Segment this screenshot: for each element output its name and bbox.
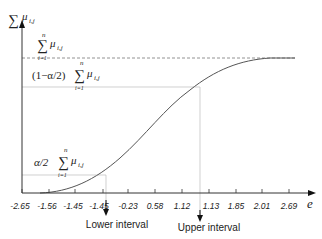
- x-tick-label: -0.23: [118, 201, 138, 211]
- svg-text:α/2: α/2: [34, 156, 49, 168]
- x-tick-label: 1.13: [203, 201, 220, 211]
- s-curve-diagram: -2.65 -1.56 -1.45 -1.45 -0.23 0.58 1.12 …: [0, 0, 322, 239]
- upper-level-annotation: (1−α/2) n ∑ μ i,j i=1: [32, 59, 100, 91]
- x-tick-label: -1.56: [37, 201, 57, 211]
- upper-interval-arrow-icon: [197, 215, 203, 222]
- svg-text:i,j: i,j: [94, 74, 100, 82]
- svg-text:∑: ∑: [58, 154, 69, 171]
- svg-text:i=1: i=1: [75, 85, 84, 91]
- svg-text:μ: μ: [86, 67, 93, 79]
- svg-text:n: n: [64, 146, 68, 154]
- x-tick-label: 1.85: [228, 201, 245, 211]
- x-tick-label: -2.65: [10, 201, 30, 211]
- svg-text:(1−α/2): (1−α/2): [32, 69, 66, 82]
- x-axis-label: e: [307, 196, 313, 211]
- x-tick-label: 1.12: [174, 201, 191, 211]
- svg-text:μ: μ: [70, 154, 77, 166]
- svg-text:∑: ∑: [74, 67, 85, 84]
- svg-text:∑: ∑: [37, 37, 48, 54]
- svg-text:μ: μ: [49, 37, 56, 49]
- lower-level-annotation: α/2 n ∑ μ i,j i=1: [34, 146, 84, 178]
- x-tick-label: 2.01: [253, 201, 271, 211]
- svg-text:i,j: i,j: [29, 17, 35, 25]
- svg-text:i,j: i,j: [78, 161, 84, 169]
- svg-text:i,j: i,j: [57, 44, 63, 52]
- upper-interval-label: Upper interval: [178, 222, 240, 233]
- svg-text:n: n: [80, 59, 84, 67]
- lower-interval-arrow-icon: [103, 209, 109, 216]
- svg-text:μ: μ: [21, 10, 28, 22]
- x-tick-label: 2.69: [280, 201, 298, 211]
- x-tick-label: -1.45: [63, 201, 83, 211]
- svg-text:∑: ∑: [8, 12, 19, 29]
- svg-text:i=1: i=1: [58, 172, 67, 178]
- lower-interval-label: Lower interval: [86, 219, 148, 230]
- total-sum-annotation: n ∑ μ i,j i=1: [37, 31, 63, 61]
- svg-text:i=1: i=1: [38, 55, 47, 61]
- x-tick-label: 0.58: [147, 201, 164, 211]
